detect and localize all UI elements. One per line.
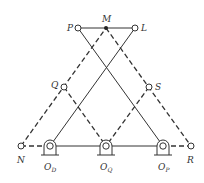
- support-OP: [154, 140, 172, 155]
- joint-S: [146, 84, 152, 90]
- joint-Q: [61, 84, 67, 90]
- label-OQ: OQ: [100, 162, 112, 173]
- joint-N: [18, 143, 24, 149]
- label-P: P: [66, 23, 74, 33]
- label-L: L: [140, 23, 147, 33]
- linkage-diagram: P M L Q S N R OD OQ OP: [0, 0, 204, 183]
- label-M: M: [101, 14, 112, 24]
- joints: [18, 25, 194, 149]
- label-N: N: [16, 155, 26, 165]
- support-OD: [41, 140, 59, 155]
- label-S: S: [155, 82, 161, 92]
- ground-supports: [41, 140, 172, 155]
- label-OP: OP: [158, 162, 170, 173]
- label-R: R: [186, 155, 194, 165]
- label-OD: OD: [44, 162, 56, 173]
- joint-M: [104, 26, 108, 30]
- label-Q: Q: [51, 80, 59, 90]
- joint-R: [188, 143, 194, 149]
- link-S-OQ: [106, 87, 149, 146]
- joint-P: [75, 25, 81, 31]
- support-OQ: [97, 140, 115, 155]
- joint-L: [132, 25, 138, 31]
- dashed-links: [21, 28, 191, 146]
- link-Q-OQ: [64, 87, 106, 146]
